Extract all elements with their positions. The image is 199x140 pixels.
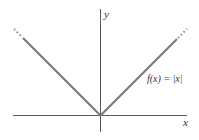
function-label: f(x) = |x| — [147, 73, 183, 85]
right-continuation-dots — [178, 29, 187, 38]
x-axis-label: x — [182, 116, 188, 128]
absolute-value-graph: y x f(x) = |x| — [0, 0, 199, 140]
left-branch — [23, 38, 101, 116]
y-axis-label: y — [103, 8, 109, 20]
left-continuation-dots — [14, 29, 22, 37]
